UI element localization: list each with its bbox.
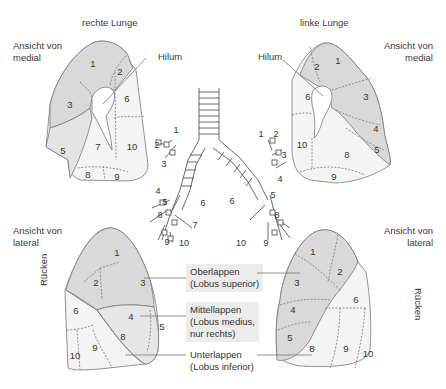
svg-text:6: 6	[229, 196, 234, 206]
svg-text:9: 9	[331, 171, 336, 182]
svg-text:2: 2	[154, 140, 159, 150]
svg-text:5: 5	[374, 144, 379, 155]
svg-text:10: 10	[127, 141, 138, 152]
svg-text:2: 2	[93, 277, 98, 288]
svg-text:5: 5	[270, 190, 275, 200]
svg-text:6: 6	[305, 91, 310, 102]
svg-text:8: 8	[274, 210, 279, 220]
right-lung-lateral	[65, 228, 186, 370]
svg-text:9: 9	[343, 343, 348, 354]
svg-text:6: 6	[124, 93, 129, 104]
svg-text:3: 3	[294, 277, 299, 288]
svg-text:4: 4	[128, 311, 133, 322]
trachea-bronchial-tree	[150, 88, 290, 242]
svg-text:3: 3	[67, 99, 72, 110]
svg-text:6: 6	[353, 294, 358, 305]
svg-text:5: 5	[159, 321, 164, 332]
svg-text:4: 4	[277, 174, 282, 184]
svg-text:5: 5	[162, 197, 167, 207]
svg-text:4: 4	[155, 186, 160, 196]
svg-text:10: 10	[363, 348, 374, 359]
svg-text:3: 3	[363, 91, 368, 102]
svg-text:1: 1	[114, 247, 119, 258]
svg-text:6: 6	[200, 198, 205, 208]
svg-text:1: 1	[173, 125, 178, 135]
svg-text:8: 8	[309, 343, 314, 354]
svg-text:10: 10	[236, 238, 246, 248]
svg-text:8: 8	[120, 331, 125, 342]
svg-text:7: 7	[95, 141, 100, 152]
svg-text:3: 3	[281, 150, 286, 160]
bronchus-numbers-left: 1 2 3 4 5 6 8 10 9	[229, 129, 286, 248]
svg-text:9: 9	[164, 237, 169, 247]
svg-text:9: 9	[92, 342, 97, 353]
right-lung-medial	[46, 41, 148, 181]
svg-text:4: 4	[373, 123, 378, 134]
svg-text:9: 9	[114, 171, 119, 182]
svg-text:8: 8	[157, 210, 162, 220]
svg-text:10: 10	[179, 238, 189, 248]
svg-text:5: 5	[287, 332, 292, 343]
svg-text:7: 7	[192, 220, 197, 230]
svg-text:2: 2	[117, 66, 122, 77]
svg-text:4: 4	[290, 304, 295, 315]
svg-text:5: 5	[60, 145, 65, 156]
svg-text:10: 10	[70, 350, 81, 361]
svg-text:1: 1	[258, 129, 263, 139]
svg-text:1: 1	[310, 246, 315, 257]
svg-text:3: 3	[140, 277, 145, 288]
svg-text:9: 9	[263, 238, 268, 248]
svg-text:8: 8	[85, 169, 90, 180]
svg-text:10: 10	[297, 139, 308, 150]
svg-text:8: 8	[344, 149, 349, 160]
lung-diagram: 1 2 3 5 6 7 8 9 10 1 2 3 4 5 6 8 9 10 1 …	[0, 0, 446, 389]
svg-text:1: 1	[335, 55, 340, 66]
svg-text:2: 2	[314, 61, 319, 72]
svg-text:1: 1	[90, 58, 95, 69]
svg-text:2: 2	[273, 129, 278, 139]
svg-text:3: 3	[161, 159, 166, 169]
svg-text:6: 6	[73, 305, 78, 316]
svg-text:2: 2	[337, 266, 342, 277]
